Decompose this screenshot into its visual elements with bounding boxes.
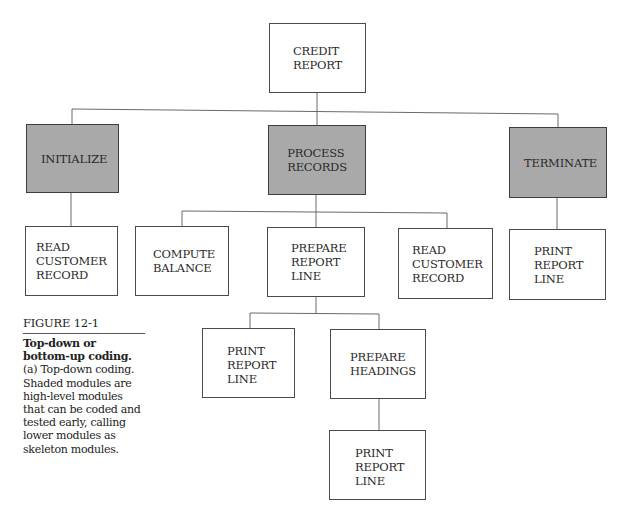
module-label-line: PRINT: [534, 244, 605, 258]
module-read-customer-record: READ CUSTOMER RECORD: [25, 226, 118, 296]
module-print-report-line: PRINT REPORT LINE: [202, 328, 295, 398]
module-label-line: PRINT: [355, 446, 425, 460]
module-print-report-line: PRINT REPORT LINE: [329, 430, 426, 500]
figure-label: FIGURE 12-1: [23, 316, 145, 334]
module-label-line: LINE: [291, 269, 364, 283]
module-label-line: LINE: [534, 272, 605, 286]
module-label-line: LINE: [227, 372, 294, 386]
module-label-line: TERMINATE: [524, 156, 606, 170]
module-label-line: COMPUTE: [153, 247, 228, 261]
module-label-line: REPORT: [227, 358, 294, 372]
module-label-line: RECORD: [412, 271, 492, 285]
module-label-line: HEADINGS: [350, 364, 425, 378]
module-label-line: BALANCE: [153, 261, 228, 275]
module-prepare-headings: PREPARE HEADINGS: [330, 329, 426, 399]
module-prepare-report-line: PREPARE REPORT LINE: [267, 227, 365, 297]
module-label-line: INITIALIZE: [41, 152, 118, 166]
module-initialize: INITIALIZE: [26, 124, 119, 193]
module-label-line: LINE: [355, 474, 425, 488]
module-credit-report: CREDIT REPORT: [269, 23, 366, 93]
module-label-line: CUSTOMER: [36, 254, 117, 268]
module-label-line: PROCESS: [287, 146, 347, 160]
module-label-line: CUSTOMER: [412, 257, 492, 271]
caption-body: (a) Top-down coding. Shaded modules are …: [23, 363, 141, 455]
module-label-line: REPORT: [355, 460, 425, 474]
module-print-report-line: PRINT REPORT LINE: [509, 229, 606, 300]
module-label-line: REPORT: [293, 58, 342, 72]
module-process-records: PROCESS RECORDS: [268, 125, 366, 195]
module-label-line: RECORDS: [287, 160, 347, 174]
module-label-line: PREPARE: [350, 350, 425, 364]
module-label-line: CREDIT: [293, 44, 342, 58]
figure-caption: FIGURE 12-1 Top-down or bottom-up coding…: [23, 316, 145, 456]
module-label-line: REPORT: [291, 255, 364, 269]
hierarchy-diagram: CREDIT REPORT INITIALIZE PROCESS RECORDS…: [0, 0, 628, 518]
module-label-line: REPORT: [534, 258, 605, 272]
module-label-line: PRINT: [227, 344, 294, 358]
module-compute-balance: COMPUTE BALANCE: [135, 226, 229, 296]
module-read-customer-record: READ CUSTOMER RECORD: [398, 228, 493, 299]
module-label-line: READ: [412, 243, 492, 257]
module-label-line: READ: [36, 240, 117, 254]
module-label-line: PREPARE: [291, 241, 364, 255]
caption-text: Top-down or bottom-up coding. (a) Top-do…: [23, 337, 145, 456]
module-label-line: RECORD: [36, 268, 117, 282]
caption-title: Top-down or bottom-up coding.: [23, 337, 132, 363]
module-terminate: TERMINATE: [509, 127, 607, 198]
